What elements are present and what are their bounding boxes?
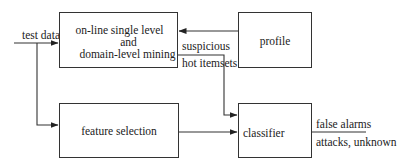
edge-label-suspicious: suspicious <box>182 40 230 52</box>
edge-label-hot-itemsets: hot itemsets <box>182 57 237 69</box>
output-label-false-alarms: false alarms <box>316 118 371 130</box>
feature-selection-node: feature selection <box>59 103 179 158</box>
output-label-attacks-unknown: attacks, unknown <box>316 136 396 148</box>
classifier-node: classifier <box>238 103 312 158</box>
mining-node-line-1: on-line single level <box>60 24 177 36</box>
mining-node: on-line single level and domain-level mi… <box>59 12 178 68</box>
profile-label: profile <box>239 35 311 47</box>
input-label: test data <box>22 29 60 41</box>
profile-node: profile <box>238 12 312 68</box>
classifier-label: classifier <box>243 127 285 139</box>
mining-node-line-3: domain-level mining <box>78 48 177 60</box>
feature-selection-label: feature selection <box>60 125 178 137</box>
mining-node-line-2: and <box>80 36 177 48</box>
edge-input-to-feature-selection <box>37 43 58 125</box>
